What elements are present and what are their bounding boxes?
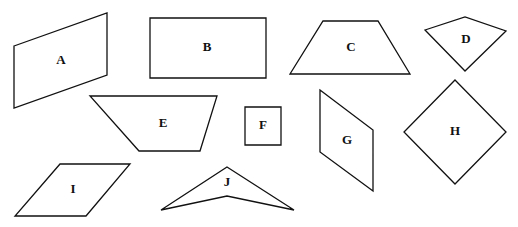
shape-b-label: B (203, 39, 212, 54)
shape-e-label: E (159, 115, 168, 130)
shape-i-label: I (70, 181, 75, 196)
quadrilaterals-diagram: A B C D E F G H (0, 0, 518, 227)
shape-e-outline (90, 96, 217, 151)
shape-c-label: C (346, 39, 355, 54)
shape-j-label: J (224, 174, 231, 189)
shape-b: B (150, 18, 266, 78)
shape-h-label: H (450, 123, 460, 138)
shape-d-label: D (461, 31, 470, 46)
shape-f-label: F (259, 117, 267, 132)
shape-g-label: G (342, 132, 352, 147)
shape-d: D (425, 17, 506, 71)
shape-i: I (15, 164, 130, 216)
shape-j: J (161, 167, 294, 210)
shape-c: C (290, 21, 410, 74)
shape-f: F (245, 107, 281, 145)
shape-e: E (90, 96, 217, 151)
shape-g: G (320, 90, 373, 191)
shape-a: A (14, 13, 107, 108)
shapes-canvas: A B C D E F G H (0, 0, 518, 227)
shape-h: H (404, 80, 506, 184)
shape-a-label: A (56, 52, 66, 67)
